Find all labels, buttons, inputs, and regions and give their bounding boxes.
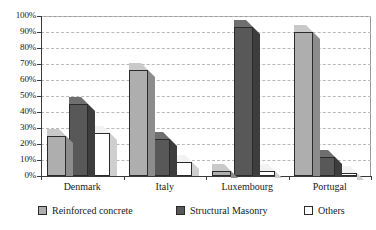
category-label-denmark: Denmark	[41, 181, 124, 192]
bar-top-face	[69, 97, 88, 104]
y-tick-label: 60%	[0, 75, 36, 84]
chart-legend: Reinforced concrete Structural Masonry O…	[0, 205, 376, 223]
bar-front-face	[212, 171, 231, 176]
y-tick-label: 20%	[0, 139, 36, 148]
x-tick-mark	[206, 176, 207, 180]
bar	[294, 25, 313, 176]
legend-swatch-reinforced-concrete	[38, 206, 47, 215]
bar-side-face	[253, 27, 260, 176]
gridline	[41, 64, 371, 65]
bar	[212, 164, 231, 176]
bar-top-face	[234, 20, 253, 27]
bar-front-face	[294, 32, 313, 176]
legend-item-structural-masonry[interactable]: Structural Masonry	[176, 205, 268, 216]
bar-front-face	[129, 70, 148, 176]
bar-top-face	[294, 25, 313, 32]
gridline	[41, 96, 371, 97]
y-tick-label: 40%	[0, 107, 36, 116]
bar-side-face	[170, 139, 177, 176]
y-tick-label: 50%	[0, 91, 36, 100]
gridline	[41, 32, 371, 33]
bar-side-face	[88, 104, 95, 176]
legend-item-others[interactable]: Others	[304, 205, 345, 216]
x-tick-mark	[289, 176, 290, 180]
gridline	[41, 48, 371, 49]
y-tick-label: 100%	[0, 11, 36, 20]
gridline	[41, 80, 371, 81]
y-axis-line	[41, 16, 42, 177]
legend-swatch-others	[304, 206, 313, 215]
bar-front-face	[234, 27, 253, 176]
y-tick-label: 90%	[0, 27, 36, 36]
bar-top-face	[212, 164, 231, 171]
bar-side-face	[335, 157, 342, 176]
bar-top-face	[129, 63, 148, 70]
bar-top-face	[47, 129, 66, 136]
x-tick-mark	[371, 176, 372, 180]
bar-side-face	[357, 173, 364, 180]
legend-label-structural-masonry: Structural Masonry	[190, 205, 268, 216]
bar	[129, 63, 148, 176]
x-tick-mark	[41, 176, 42, 180]
x-tick-mark	[124, 176, 125, 180]
y-tick-label: 80%	[0, 43, 36, 52]
legend-label-reinforced-concrete: Reinforced concrete	[52, 205, 133, 216]
bar-side-face	[192, 162, 199, 176]
y-tick-label: 10%	[0, 155, 36, 164]
category-label-italy: Italy	[124, 181, 207, 192]
legend-label-others: Others	[318, 205, 345, 216]
y-tick-label: 30%	[0, 123, 36, 132]
gridline	[41, 16, 371, 17]
y-tick-label: 0%	[0, 171, 36, 180]
bar-side-face	[275, 171, 282, 178]
bar	[234, 20, 253, 176]
category-label-luxembourg: Luxembourg	[206, 181, 289, 192]
y-tick-label: 70%	[0, 59, 36, 68]
legend-swatch-structural-masonry	[176, 206, 185, 215]
legend-item-reinforced-concrete[interactable]: Reinforced concrete	[38, 205, 133, 216]
bar-front-face	[47, 136, 66, 176]
bar-side-face	[148, 70, 155, 176]
bar-side-face	[66, 136, 73, 176]
bar-side-face	[110, 133, 117, 176]
category-label-portugal: Portugal	[289, 181, 372, 192]
bar-chart: 0%10%20%30%40%50%60%70%80%90%100% Denmar…	[0, 0, 376, 230]
bar	[47, 129, 66, 176]
bar-side-face	[231, 171, 238, 178]
bar-side-face	[313, 32, 320, 176]
